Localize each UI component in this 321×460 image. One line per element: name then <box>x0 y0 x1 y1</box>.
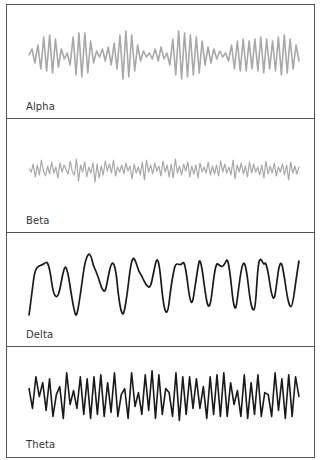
delta-label: Delta <box>26 329 53 340</box>
panel-theta: Theta <box>7 346 314 457</box>
panel-beta: Beta <box>7 118 314 233</box>
eeg-figure: Alpha Beta Delta Theta <box>6 4 315 458</box>
panel-alpha: Alpha <box>7 5 314 119</box>
alpha-label: Alpha <box>26 101 55 112</box>
panel-delta: Delta <box>7 232 314 347</box>
theta-label: Theta <box>26 439 55 450</box>
beta-label: Beta <box>26 215 49 226</box>
beta-waveform <box>7 119 314 233</box>
